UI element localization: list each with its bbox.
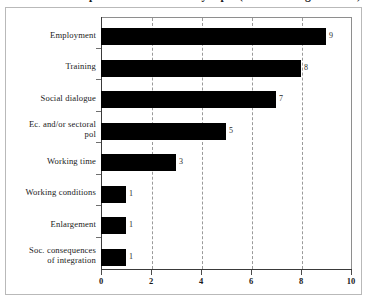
bar-enlargement bbox=[101, 217, 126, 234]
y-axis-tick bbox=[96, 205, 101, 206]
x-axis-tick-label: 4 bbox=[191, 277, 211, 286]
x-axis-line bbox=[101, 269, 352, 270]
category-label-ec-sectoral-pol: Ec. and/or sectoral pol bbox=[29, 120, 96, 139]
category-label-working-time: Working time bbox=[47, 157, 96, 167]
y-axis-tick bbox=[96, 174, 101, 175]
bar-value-enlargement: 1 bbox=[129, 221, 133, 229]
gridline-6 bbox=[252, 18, 253, 269]
x-axis-tick-label: 8 bbox=[291, 277, 311, 286]
y-axis-tick bbox=[96, 142, 101, 143]
category-label-enlargement: Enlargement bbox=[51, 220, 96, 230]
bar-value-social-dialogue: 7 bbox=[279, 95, 283, 103]
bar-working-time bbox=[101, 154, 176, 171]
x-axis-tick-label: 0 bbox=[91, 277, 111, 286]
x-axis-tick-label: 10 bbox=[341, 277, 361, 286]
bar-training bbox=[101, 60, 301, 77]
chart-figure: Themes of European works councils by top… bbox=[0, 0, 369, 302]
category-label-social-dialogue: Social dialogue bbox=[41, 94, 96, 104]
bar-ec-sectoral-pol bbox=[101, 123, 226, 140]
y-axis-tick bbox=[96, 48, 101, 49]
gridline-2 bbox=[152, 18, 153, 269]
x-axis-tick bbox=[351, 270, 352, 275]
category-label-working-conditions: Working conditions bbox=[25, 188, 96, 198]
bar-social-dialogue bbox=[101, 91, 276, 108]
category-label-soc-consequences: Soc. consequences of integration bbox=[29, 246, 96, 265]
x-axis-tick bbox=[101, 270, 102, 275]
bar-employment bbox=[101, 28, 326, 45]
x-axis-tick bbox=[201, 270, 202, 275]
bar-value-ec-sectoral-pol: 5 bbox=[229, 127, 233, 135]
bar-working-conditions bbox=[101, 186, 126, 203]
x-axis-tick-label: 2 bbox=[141, 277, 161, 286]
bar-value-training: 8 bbox=[304, 64, 308, 72]
bar-soc-consequences bbox=[101, 249, 126, 266]
chart-title: Themes of European works councils by top… bbox=[0, 0, 369, 1]
x-axis-tick-label: 6 bbox=[241, 277, 261, 286]
bar-value-working-conditions: 1 bbox=[129, 190, 133, 198]
bar-value-soc-consequences: 1 bbox=[129, 253, 133, 261]
x-axis-tick bbox=[151, 270, 152, 275]
category-label-training: Training bbox=[66, 62, 97, 72]
y-axis-tick bbox=[96, 111, 101, 112]
bar-value-employment: 9 bbox=[329, 32, 333, 40]
category-label-employment: Employment bbox=[50, 31, 96, 41]
y-axis-tick bbox=[96, 79, 101, 80]
x-axis-tick bbox=[301, 270, 302, 275]
bar-value-working-time: 3 bbox=[179, 158, 183, 166]
x-axis-tick bbox=[251, 270, 252, 275]
gridline-4 bbox=[202, 18, 203, 269]
y-axis-tick bbox=[96, 237, 101, 238]
plot-area bbox=[101, 17, 352, 270]
gridline-8 bbox=[302, 18, 303, 269]
